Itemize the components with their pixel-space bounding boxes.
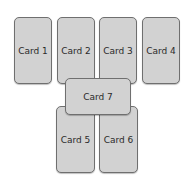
card-7[interactable]: Card 7 [65,78,131,115]
card-label: Card 3 [103,46,133,56]
card-4[interactable]: Card 4 [142,17,180,84]
card-label: Card 1 [18,46,48,56]
card-label: Card 6 [104,135,134,145]
card-1[interactable]: Card 1 [14,17,52,84]
card-label: Card 2 [61,46,91,56]
card-6[interactable]: Card 6 [99,106,138,173]
card-3[interactable]: Card 3 [99,17,137,84]
card-5[interactable]: Card 5 [56,106,95,173]
card-label: Card 4 [146,46,176,56]
card-label: Card 7 [83,92,113,102]
card-2[interactable]: Card 2 [57,17,95,84]
card-label: Card 5 [61,135,91,145]
